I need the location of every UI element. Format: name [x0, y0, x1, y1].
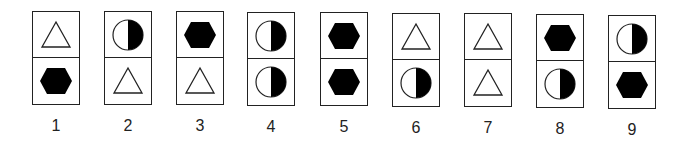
triangle-icon: [470, 65, 506, 101]
top-cell: [465, 14, 511, 60]
card-5: [320, 12, 368, 106]
triangle-icon: [470, 19, 506, 55]
half-circle-icon: [542, 66, 578, 102]
card-number-label: 4: [247, 118, 295, 136]
top-cell: [33, 12, 79, 58]
bottom-cell: [609, 62, 655, 108]
half-circle-icon: [614, 21, 650, 57]
bottom-cell: [248, 59, 294, 105]
card-1: [32, 11, 80, 105]
top-cell: [537, 15, 583, 61]
hexagon-icon: [326, 18, 362, 54]
bottom-cell: [465, 60, 511, 106]
hexagon-icon: [326, 64, 362, 100]
card-number-label: 7: [464, 119, 512, 137]
card-number-label: 8: [536, 120, 584, 138]
hexagon-icon: [182, 17, 218, 53]
bottom-cell: [33, 58, 79, 104]
card-8: [536, 14, 584, 108]
hexagon-icon: [542, 20, 578, 56]
card-number-label: 6: [392, 119, 440, 137]
bottom-cell: [321, 59, 367, 105]
top-cell: [393, 14, 439, 60]
card-number-label: 3: [176, 117, 224, 135]
half-circle-icon: [253, 18, 289, 54]
hexagon-icon: [38, 63, 74, 99]
card-2: [104, 11, 152, 105]
card-4: [247, 12, 295, 106]
half-circle-icon: [253, 64, 289, 100]
top-cell: [321, 13, 367, 59]
bottom-cell: [393, 60, 439, 106]
card-6: [392, 13, 440, 107]
bottom-cell: [177, 58, 223, 104]
bottom-cell: [105, 58, 151, 104]
card-number-label: 5: [320, 118, 368, 136]
triangle-icon: [110, 63, 146, 99]
half-circle-icon: [110, 17, 146, 53]
top-cell: [609, 16, 655, 62]
top-cell: [177, 12, 223, 58]
card-number-label: 1: [32, 117, 80, 135]
card-number-label: 2: [104, 117, 152, 135]
card-3: [176, 11, 224, 105]
bottom-cell: [537, 61, 583, 107]
top-cell: [105, 12, 151, 58]
half-circle-icon: [398, 65, 434, 101]
triangle-icon: [398, 19, 434, 55]
triangle-icon: [38, 17, 74, 53]
triangle-icon: [182, 63, 218, 99]
top-cell: [248, 13, 294, 59]
hexagon-icon: [614, 67, 650, 103]
card-7: [464, 13, 512, 107]
card-number-label: 9: [608, 121, 656, 139]
card-9: [608, 15, 656, 109]
